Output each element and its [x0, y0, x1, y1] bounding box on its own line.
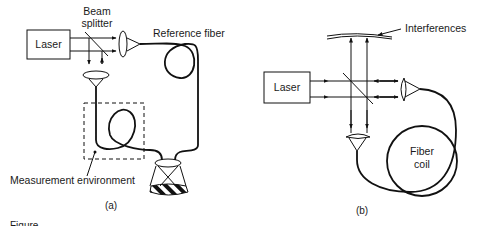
lens-right-a [119, 31, 127, 57]
reference-fiber-label: Reference fiber [153, 27, 225, 39]
interference-screen-a [150, 184, 188, 195]
interferences-label: Interferences [405, 22, 466, 34]
fiber-coil-label-line2: coil [414, 158, 430, 170]
beam-splitter-mirror-a [85, 32, 108, 56]
panel-a: Laser Beam splitter Reference fiber Meas… [10, 5, 225, 211]
measurement-environment-label: Measurement environment [10, 174, 135, 186]
beam-splitter-mirror-b [343, 73, 373, 104]
figure: Laser Beam splitter Reference fiber Meas… [0, 0, 478, 226]
beam-splitter-label-line1: Beam [83, 5, 111, 17]
laser-label-b: Laser [274, 81, 301, 93]
laser-box-b: Laser [264, 72, 310, 103]
figure-caption-partial: Figure [10, 220, 39, 226]
laser-box-a: Laser [27, 30, 70, 59]
measurement-fiber [96, 87, 162, 160]
caption-a: (a) [105, 200, 117, 211]
panel-b: Laser Interferences Fiber c [264, 22, 466, 216]
laser-label-a: Laser [35, 38, 62, 50]
detector-lens-a [155, 159, 181, 167]
lens-lower-b [346, 134, 370, 139]
beam-splitter-label-line2: splitter [82, 17, 113, 29]
lens-lower-a [83, 71, 109, 79]
reference-fiber [140, 44, 198, 161]
caption-b: (b) [356, 205, 368, 216]
fiber-coil-label-line1: Fiber [410, 145, 434, 157]
interference-screen-b [327, 36, 392, 39]
